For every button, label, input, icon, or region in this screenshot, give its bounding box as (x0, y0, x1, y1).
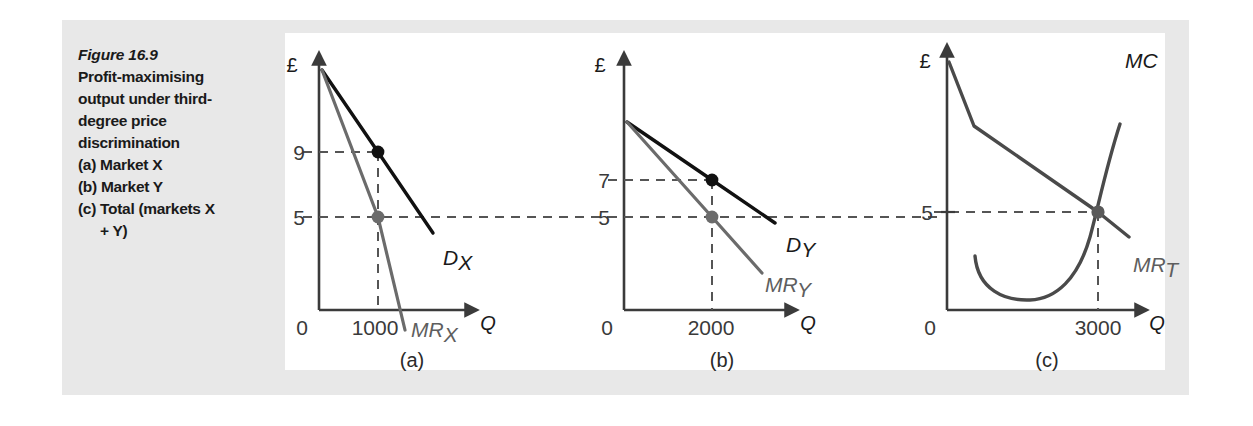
caption-line-3: degree price (78, 110, 278, 132)
caption-line-4: discrimination (78, 132, 278, 154)
caption-line-market-y: (b) Market Y (78, 176, 278, 198)
caption-line-total-cont: + Y) (78, 220, 278, 242)
caption-line-market-x: (a) Market X (78, 154, 278, 176)
figure-root: Figure 16.9 Profit-maximising output und… (0, 0, 1253, 426)
figure-number-label: Figure 16.9 (78, 44, 278, 66)
figure-plot-canvas (285, 33, 1165, 370)
caption-line-2: output under third- (78, 88, 278, 110)
caption-line-1: Profit-maximising (78, 66, 278, 88)
figure-caption: Figure 16.9 Profit-maximising output und… (78, 44, 278, 242)
caption-line-total: (c) Total (markets X (78, 198, 278, 220)
